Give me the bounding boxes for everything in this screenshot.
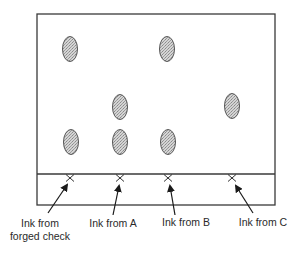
label-ink-b: Ink from B xyxy=(162,216,210,229)
spot-forged-2 xyxy=(64,130,79,155)
spot-A-2 xyxy=(113,130,128,155)
spot-C-1 xyxy=(225,94,240,119)
arrow-icon xyxy=(236,186,253,213)
cross-x-icon xyxy=(164,175,172,182)
arrow-icon xyxy=(48,185,67,213)
spots-layer xyxy=(63,37,240,155)
label-forged-check-line2: forged check xyxy=(10,230,70,243)
label-forged-check-line1: Ink from xyxy=(21,217,59,230)
spot-forged-1 xyxy=(63,37,78,62)
label-ink-a: Ink from A xyxy=(89,217,136,230)
arrows-layer xyxy=(48,185,253,215)
cross-x-icon xyxy=(228,175,236,182)
spot-A-1 xyxy=(113,95,128,120)
cross-x-icon xyxy=(66,175,74,182)
spot-B-2 xyxy=(161,130,176,155)
spot-B-1 xyxy=(160,37,175,62)
cross-x-icon xyxy=(116,175,124,182)
label-ink-c: Ink from C xyxy=(239,216,287,229)
origin-marks-layer xyxy=(66,175,236,182)
arrow-icon xyxy=(170,186,175,215)
arrow-icon xyxy=(113,186,119,215)
